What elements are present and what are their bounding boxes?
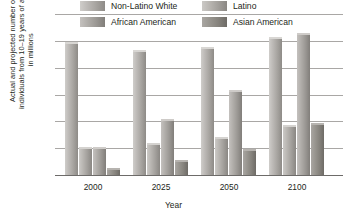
plot-area: 302520151050 xyxy=(55,14,343,175)
bar[interactable] xyxy=(215,139,228,175)
bar[interactable] xyxy=(65,44,78,175)
bar-face xyxy=(147,145,160,175)
legend-item-non-latino-white[interactable]: Non-Latino White xyxy=(80,1,177,11)
bar[interactable] xyxy=(175,162,188,175)
x-axis-tick-label: 2000 xyxy=(57,182,129,192)
bar-face xyxy=(175,162,188,175)
bar-face xyxy=(283,127,296,175)
bar[interactable] xyxy=(283,127,296,175)
legend-swatch-icon xyxy=(80,1,105,11)
x-axis-tick-label: 2100 xyxy=(261,182,333,192)
x-axis-title: Year xyxy=(0,200,347,210)
bar[interactable] xyxy=(269,39,282,175)
bar-face xyxy=(161,121,174,175)
x-axis-tick-label: 2025 xyxy=(125,182,197,192)
bar[interactable] xyxy=(201,49,214,175)
bar-group xyxy=(133,14,189,175)
y-axis-title: Actual and projected number of individua… xyxy=(8,0,36,130)
bar-group xyxy=(65,14,121,175)
bar[interactable] xyxy=(243,151,256,175)
bar-face xyxy=(269,39,282,175)
bar[interactable] xyxy=(133,52,146,175)
legend-swatch-icon xyxy=(202,1,227,11)
bar-face xyxy=(79,149,92,175)
x-axis-tick-label: 2050 xyxy=(193,182,265,192)
bar-face xyxy=(243,151,256,175)
bar-face xyxy=(215,139,228,175)
bar-face xyxy=(133,52,146,175)
bar[interactable] xyxy=(147,145,160,175)
bar-face xyxy=(65,44,78,175)
bar[interactable] xyxy=(297,35,310,175)
bar-group xyxy=(201,14,257,175)
x-axis-line xyxy=(55,175,343,176)
bar-face xyxy=(93,149,106,175)
legend-item-latino[interactable]: Latino xyxy=(202,1,256,11)
bar-face xyxy=(297,35,310,175)
bar[interactable] xyxy=(311,125,324,175)
bar[interactable] xyxy=(79,149,92,175)
bar[interactable] xyxy=(107,170,120,175)
bar-face xyxy=(201,49,214,175)
bar[interactable] xyxy=(229,92,242,175)
bar-face xyxy=(107,170,120,175)
bar[interactable] xyxy=(93,149,106,175)
bar-chart: Actual and projected number of individua… xyxy=(0,0,347,222)
bar[interactable] xyxy=(161,121,174,175)
bar-face xyxy=(229,92,242,175)
bar-group xyxy=(269,14,325,175)
bar-groups xyxy=(55,14,343,175)
bar-face xyxy=(311,125,324,175)
legend-label: Latino xyxy=(233,1,256,11)
legend-label: Non-Latino White xyxy=(111,1,177,11)
